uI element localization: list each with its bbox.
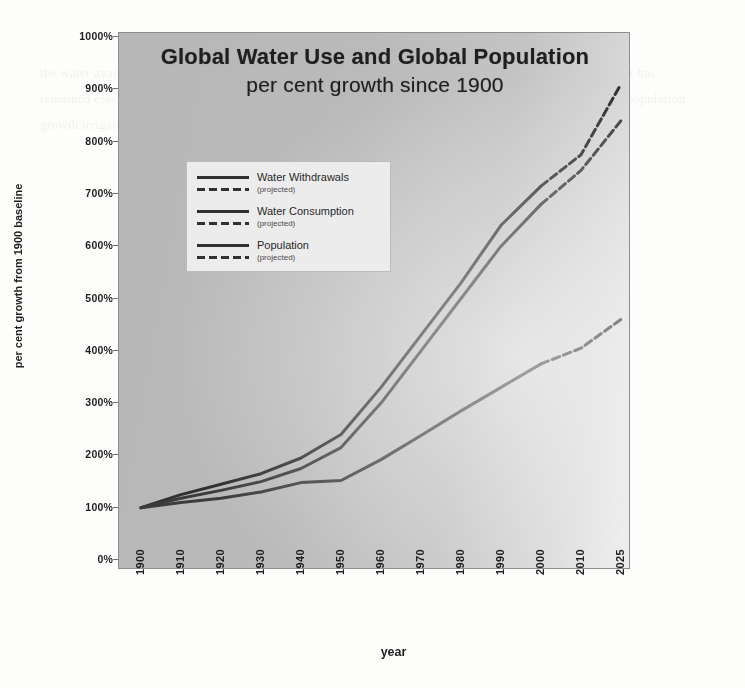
chart-title-block: Global Water Use and Global Population p… (160, 44, 590, 97)
x-axis-tick-label: 1930 (254, 549, 266, 575)
series-line-projected (541, 319, 621, 364)
y-axis-tick-label: 800% (85, 135, 113, 147)
y-axis-tick-label: 900% (85, 82, 113, 94)
y-axis-tick-label: 700% (85, 187, 113, 199)
y-axis-tick-label: 0% (97, 553, 113, 565)
legend-solid-line-swatch (197, 176, 249, 179)
legend-item-projected-label: (projected) (257, 253, 295, 262)
y-axis-tick-label: 100% (85, 501, 113, 513)
legend-dashed-line-swatch (197, 256, 249, 259)
legend-item-projected-label: (projected) (257, 185, 295, 194)
x-axis-tick-label: 1970 (414, 549, 426, 575)
y-axis-tick-label: 500% (85, 292, 113, 304)
legend: Water Withdrawals(projected)Water Consum… (186, 161, 391, 272)
x-axis-tick-label: 1920 (214, 549, 226, 575)
y-axis-title: per cent growth from 1900 baseline (12, 184, 24, 369)
legend-dashed-line-swatch (197, 188, 249, 191)
x-axis-tick-label: 2010 (574, 549, 586, 575)
y-axis-tick-label: 300% (85, 396, 113, 408)
legend-dashed-line-swatch (197, 222, 249, 225)
legend-solid-line-swatch (197, 210, 249, 213)
x-axis-tick-label: 1960 (374, 549, 386, 575)
x-axis-tick-label: 2025 (614, 549, 626, 575)
legend-item: Water Consumption(projected) (197, 205, 380, 228)
x-axis-tick-label: 1900 (134, 549, 146, 575)
chart-subtitle: per cent growth since 1900 (160, 73, 590, 97)
legend-item-label: Water Consumption (257, 205, 354, 217)
x-axis-title: year (0, 645, 745, 659)
x-axis-tick-label: 1990 (494, 549, 506, 575)
series-line-projected (541, 121, 621, 205)
chart-figure: per cent growth from 1900 baseline 0%100… (0, 0, 745, 688)
x-axis-tick-label: 1910 (174, 549, 186, 575)
legend-item-projected-label: (projected) (257, 219, 295, 228)
plot-area (118, 32, 630, 569)
legend-item-label: Water Withdrawals (257, 171, 349, 183)
x-axis-tick-label: 1950 (334, 549, 346, 575)
legend-item: Water Withdrawals(projected) (197, 171, 380, 194)
y-axis-tick-label: 400% (85, 344, 113, 356)
x-axis-tick-label: 1940 (294, 549, 306, 575)
x-axis-tick-label: 1980 (454, 549, 466, 575)
x-axis-ticks: 1900191019201930194019501960197019801990… (0, 575, 745, 645)
chart-title: Global Water Use and Global Population (160, 44, 590, 70)
series-lines (119, 33, 631, 570)
legend-item: Population(projected) (197, 239, 380, 262)
y-axis-tick-label: 200% (85, 448, 113, 460)
y-axis-tick-label: 1000% (79, 30, 113, 42)
legend-item-label: Population (257, 239, 309, 251)
x-axis-tick-label: 2000 (534, 549, 546, 575)
y-axis-tick-label: 600% (85, 239, 113, 251)
legend-solid-line-swatch (197, 244, 249, 247)
